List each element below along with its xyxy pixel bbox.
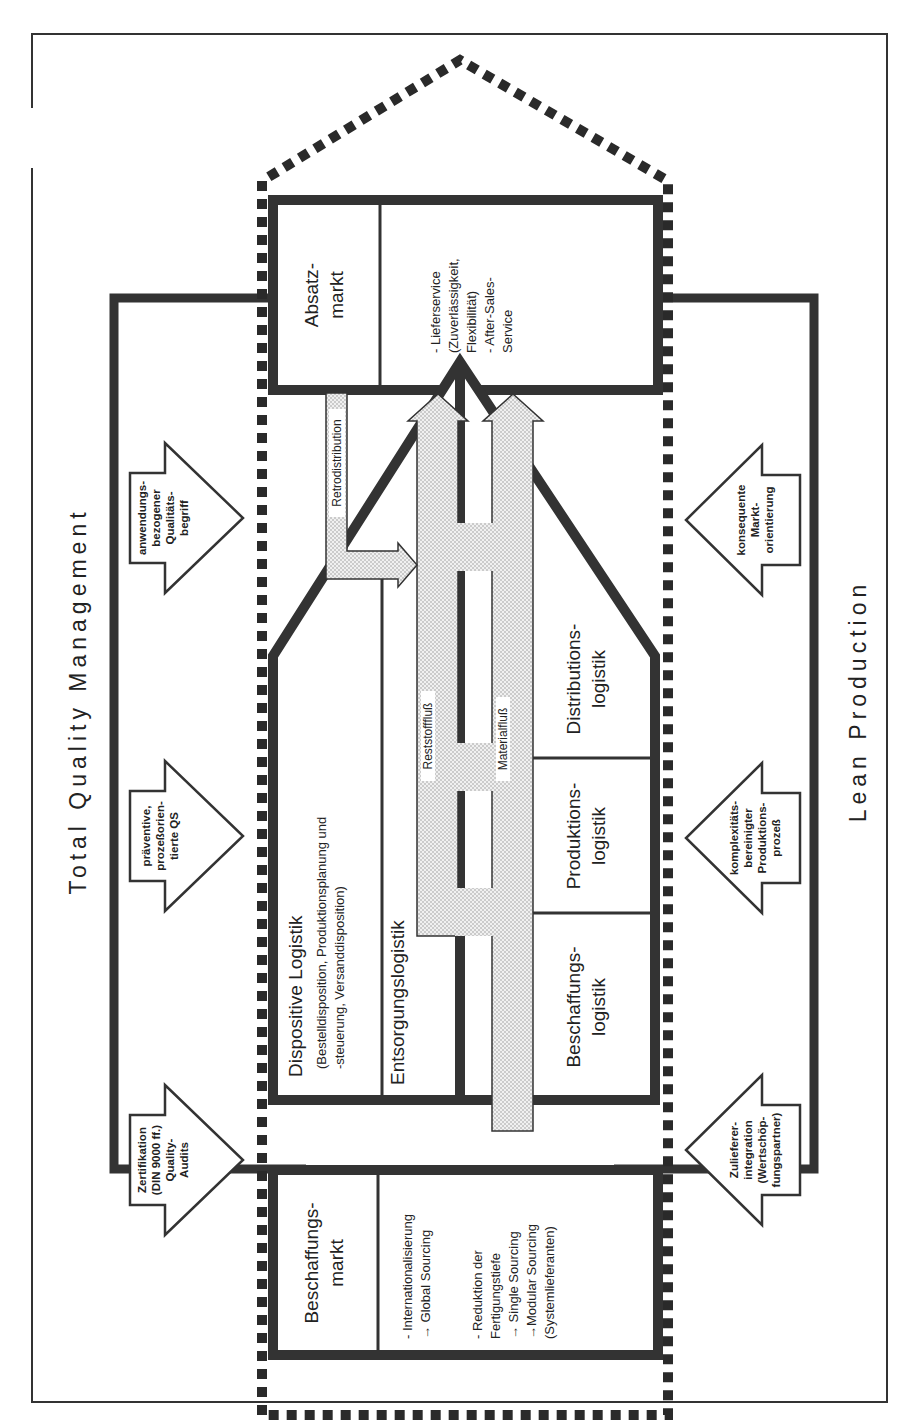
- svg-text:Produktions-: Produktions-: [756, 802, 768, 873]
- procurement-detail-6: → Single Sourcing: [506, 1231, 521, 1339]
- svg-text:begriff: begriff: [178, 500, 190, 536]
- svg-text:Audits: Audits: [178, 1142, 190, 1178]
- residual-flow-label: Reststofffluß: [421, 703, 435, 770]
- procurement-logistics-1: Beschaffungs-: [563, 946, 584, 1067]
- procurement-market-title-2: markt: [326, 1239, 347, 1287]
- svg-text:Zertifikation: Zertifikation: [136, 1127, 148, 1193]
- sales-detail-1: - Lieferservice: [428, 271, 443, 353]
- lean-arrow-lean-process: komplexitäts- bereinigter Produktions- p…: [686, 763, 800, 913]
- svg-text:orientierung: orientierung: [763, 486, 775, 553]
- svg-text:prozeßorien-: prozeßorien-: [154, 801, 166, 871]
- distribution-logistics-1: Distributions-: [563, 624, 584, 735]
- tqm-arrow-preventive-qa: präventive, prozeßorien- tierte QS: [130, 761, 243, 911]
- procurement-market-box: Beschaffungs- markt - Internationalisier…: [273, 1170, 658, 1355]
- sales-market-title-2: markt: [326, 271, 347, 319]
- procurement-market-title-1: Beschaffungs-: [301, 1202, 322, 1323]
- sales-detail-5: Service: [500, 310, 515, 353]
- sales-market-title-1: Absatz-: [301, 263, 322, 327]
- svg-text:integration: integration: [742, 1120, 754, 1179]
- top-label: Total Quality Management: [65, 507, 91, 894]
- dispositive-logistics-title: Dispositive Logistik: [285, 915, 306, 1077]
- retrodistribution-label: Retrodistribution: [330, 419, 344, 506]
- svg-text:Markt-: Markt-: [749, 503, 761, 538]
- sales-detail-3: Flexibilität): [464, 291, 479, 353]
- svg-text:Qualitäts-: Qualitäts-: [164, 491, 176, 544]
- svg-text:konsequente: konsequente: [735, 485, 747, 556]
- svg-text:präventive,: präventive,: [140, 806, 152, 867]
- dispositive-logistics-sub-1: (Bestelldisposition, Produktionsplanung …: [314, 817, 329, 1069]
- svg-text:tierte QS: tierte QS: [168, 812, 180, 860]
- procurement-detail-8: (Systemlieferanten): [542, 1226, 557, 1339]
- distribution-logistics-2: logistik: [588, 649, 609, 708]
- lean-arrow-market-orientation: konsequente Markt- orientierung: [686, 445, 800, 595]
- tqm-arrow-certification: Zertifikation (DIN 9000 ff.) Quality- Au…: [130, 1085, 243, 1235]
- logistics-house-diagram: Total Quality Management Lean Production…: [0, 0, 920, 1421]
- dispositive-logistics-sub-2: -steuerung, Versanddisposition): [332, 886, 347, 1069]
- rotated-diagram-canvas: Total Quality Management Lean Production…: [0, 0, 920, 1421]
- svg-text:(DIN 9000 ff.): (DIN 9000 ff.): [150, 1125, 162, 1195]
- sales-detail-4: - After-Sales-: [482, 277, 497, 353]
- procurement-detail-1: - Internationalisierung: [400, 1214, 415, 1339]
- lean-arrow-supplier-integration: Zulieferer- integration (Wertschöp- fung…: [686, 1075, 800, 1225]
- svg-text:prozeß: prozeß: [770, 819, 782, 857]
- svg-text:komplexitäts-: komplexitäts-: [728, 801, 740, 875]
- svg-text:bezogener: bezogener: [150, 489, 162, 547]
- svg-text:Zulieferer-: Zulieferer-: [728, 1122, 740, 1178]
- svg-text:fungspartner): fungspartner): [770, 1112, 782, 1187]
- material-flow-label: Materialfluß: [496, 708, 510, 771]
- svg-text:anwendungs-: anwendungs-: [136, 481, 148, 555]
- svg-text:Quality-: Quality-: [164, 1138, 176, 1181]
- svg-text:(Wertschöp-: (Wertschöp-: [756, 1116, 768, 1183]
- production-logistics-1: Produktions-: [563, 783, 584, 890]
- bottom-label: Lean Production: [845, 580, 871, 823]
- sales-detail-2: (Zuverlässigkeit,: [446, 258, 461, 353]
- disposal-logistics-title: Entsorgungslogistik: [387, 920, 408, 1085]
- procurement-detail-7: →Modular Sourcing: [524, 1224, 539, 1339]
- svg-text:bereinigter: bereinigter: [742, 808, 754, 868]
- tqm-arrow-quality-concept: anwendungs- bezogener Qualitäts- begriff: [130, 443, 243, 593]
- procurement-detail-5: Fertigungstiefe: [488, 1253, 503, 1339]
- procurement-detail-4: - Reduktion der: [470, 1249, 485, 1339]
- procurement-logistics-2: logistik: [588, 977, 609, 1036]
- production-logistics-2: logistik: [588, 806, 609, 865]
- procurement-detail-2: → Global Sourcing: [418, 1230, 433, 1339]
